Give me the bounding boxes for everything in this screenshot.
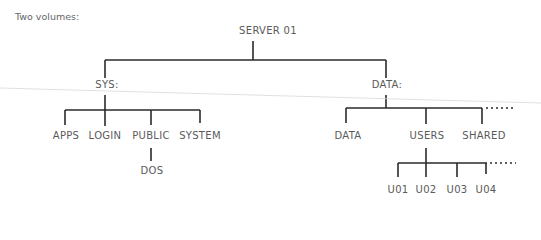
tree-node-public: PUBLIC bbox=[132, 130, 170, 141]
tree-node-server-01: SERVER 01 bbox=[239, 25, 297, 36]
tree-node-dos: DOS bbox=[141, 165, 164, 176]
tree-node-apps: APPS bbox=[53, 130, 79, 141]
tree-node-u01: U01 bbox=[388, 184, 409, 195]
tree-node-volume-data: DATA: bbox=[372, 79, 402, 90]
tree-node-volume-sys: SYS: bbox=[95, 79, 118, 90]
tree-node-u03: U03 bbox=[447, 184, 468, 195]
tree-node-shared: SHARED bbox=[462, 130, 505, 141]
tree-node-u04: U04 bbox=[476, 184, 497, 195]
tree-node-data-folder: DATA bbox=[335, 130, 362, 141]
tree-node-login: LOGIN bbox=[89, 130, 122, 141]
tree-node-system: SYSTEM bbox=[179, 130, 221, 141]
tree-node-u02: U02 bbox=[416, 184, 437, 195]
tree-node-users: USERS bbox=[410, 130, 445, 141]
